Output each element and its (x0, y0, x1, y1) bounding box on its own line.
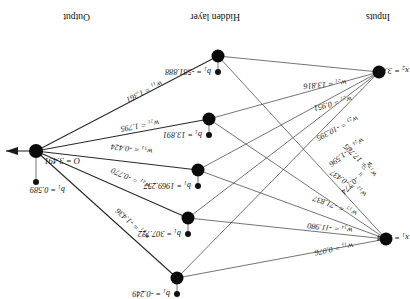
bias-node-h1 (215, 69, 221, 75)
hidden-node-4 (182, 212, 195, 225)
edge-x1-h2 (188, 218, 386, 239)
input-label-x2: x₂ = 3.81 (377, 66, 409, 76)
hidden-node-5 (171, 272, 184, 285)
input-label-x1: x₁ = 25.4 (377, 233, 409, 243)
hidden-node-3 (192, 164, 205, 177)
bias-label-h5: b₁ = -0.249 (132, 289, 170, 297)
bias-label-h1: b₁ = -581.888 (165, 67, 211, 75)
edge-x1-h1 (177, 239, 386, 278)
neural-network-diagram: x₁ = 25.4 x₂ = 3.81 O = 3.491 b₁ = -0.24… (0, 0, 410, 299)
column-header-inputs: Inputs (366, 12, 390, 23)
edge-x1-h5 (218, 56, 386, 239)
bias-node-h5 (174, 291, 180, 297)
bias-node-h2 (206, 132, 212, 138)
output-label: O = 3.491 (44, 156, 80, 166)
edge-x2-h5 (218, 56, 379, 72)
column-header-hidden-layer: Hidden layer (190, 12, 240, 23)
edge-x2-h4 (209, 72, 379, 119)
bias-label-out: b₁ = 0.589 (30, 185, 65, 193)
hidden-node-1 (212, 50, 225, 63)
output-node (29, 144, 43, 158)
bias-node-h4 (185, 231, 191, 237)
bias-node-h3 (195, 183, 201, 189)
column-header-output: Output (63, 12, 90, 23)
hidden-node-2 (203, 113, 216, 126)
output-arrow-head (6, 147, 18, 155)
edge-h1-out (36, 151, 177, 278)
bias-label-h2: b₁ = 13.891 (163, 130, 202, 138)
